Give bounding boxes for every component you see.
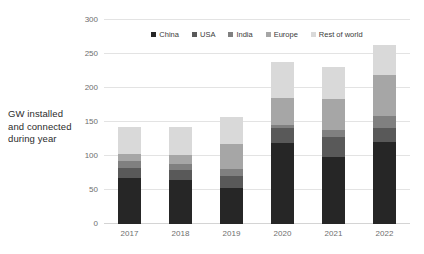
bar-segment[interactable] <box>220 144 243 168</box>
x-axis-tick-2022: 2022 <box>373 229 396 238</box>
y-axis-tick-250: 250 <box>85 49 98 58</box>
x-axis-tick-2018: 2018 <box>169 229 192 238</box>
y-axis-tick-50: 50 <box>89 185 98 194</box>
y-axis-title-line-1: GW installed <box>8 108 84 121</box>
legend-swatch-icon <box>311 32 316 37</box>
bar-segment[interactable] <box>322 157 345 224</box>
bar-segment[interactable] <box>373 142 396 224</box>
y-axis-title: GW installed and connected during year <box>8 108 84 146</box>
bar-segment[interactable] <box>271 98 294 125</box>
x-axis-tick-2019: 2019 <box>220 229 243 238</box>
bar-group[interactable]: 2020 <box>271 62 294 224</box>
y-axis-tick-200: 200 <box>85 83 98 92</box>
bar-segment[interactable] <box>220 117 243 144</box>
legend-item[interactable]: USA <box>192 30 215 39</box>
bar-segment[interactable] <box>373 128 396 142</box>
y-axis-tick-100: 100 <box>85 151 98 160</box>
bar-segment[interactable] <box>118 168 141 178</box>
legend-swatch-icon <box>228 32 233 37</box>
bar-segment[interactable] <box>118 178 141 224</box>
bar-segment[interactable] <box>373 45 396 75</box>
legend-label: China <box>159 30 179 39</box>
legend-item[interactable]: Rest of world <box>311 30 363 39</box>
legend-swatch-icon <box>192 32 197 37</box>
bar-segment[interactable] <box>373 116 396 128</box>
bar-segment[interactable] <box>220 176 243 188</box>
bar-segment[interactable] <box>118 161 141 168</box>
bar-group[interactable]: 2019 <box>220 117 243 224</box>
plot-area: 050100150200250300 201720182019202020212… <box>104 20 410 224</box>
x-axis-tick-2020: 2020 <box>271 229 294 238</box>
bar-segment[interactable] <box>169 164 192 171</box>
bar-segment[interactable] <box>322 99 345 130</box>
bar-segment[interactable] <box>271 128 294 143</box>
stacked-bar-chart: GW installed and connected during year 0… <box>0 0 424 254</box>
bar-segment[interactable] <box>373 75 396 116</box>
legend-label: Rest of world <box>319 30 363 39</box>
bar-segment[interactable] <box>169 127 192 154</box>
bar-group[interactable]: 2021 <box>322 67 345 224</box>
bar-segment[interactable] <box>118 127 141 154</box>
bar-segment[interactable] <box>322 67 345 99</box>
x-axis-tick-2021: 2021 <box>322 229 345 238</box>
legend-label: USA <box>200 30 215 39</box>
x-axis-tick-2017: 2017 <box>118 229 141 238</box>
legend-item[interactable]: Europe <box>266 30 298 39</box>
y-axis-tick-0: 0 <box>94 219 98 228</box>
bar-group[interactable]: 2018 <box>169 127 192 224</box>
y-axis-title-line-2: and connected <box>8 121 84 134</box>
bar-segment[interactable] <box>118 154 141 161</box>
bar-segment[interactable] <box>271 62 294 97</box>
bar-group[interactable]: 2017 <box>118 127 141 224</box>
bar-group[interactable]: 2022 <box>373 45 396 224</box>
legend-item[interactable]: India <box>228 30 252 39</box>
legend-swatch-icon <box>266 32 271 37</box>
chart-legend: ChinaUSAIndiaEuropeRest of world <box>104 30 410 39</box>
bar-segment[interactable] <box>322 130 345 137</box>
legend-label: India <box>236 30 252 39</box>
bars-layer: 201720182019202020212022 <box>104 20 410 224</box>
y-axis-title-line-3: during year <box>8 133 84 146</box>
bar-segment[interactable] <box>169 155 192 164</box>
y-axis-tick-150: 150 <box>85 117 98 126</box>
bar-segment[interactable] <box>220 188 243 224</box>
bar-segment[interactable] <box>271 143 294 224</box>
bar-segment[interactable] <box>220 169 243 176</box>
bar-segment[interactable] <box>169 170 192 180</box>
legend-item[interactable]: China <box>151 30 179 39</box>
y-axis-tick-300: 300 <box>85 15 98 24</box>
legend-swatch-icon <box>151 32 156 37</box>
bar-segment[interactable] <box>169 180 192 224</box>
bar-segment[interactable] <box>322 137 345 157</box>
legend-label: Europe <box>274 30 298 39</box>
